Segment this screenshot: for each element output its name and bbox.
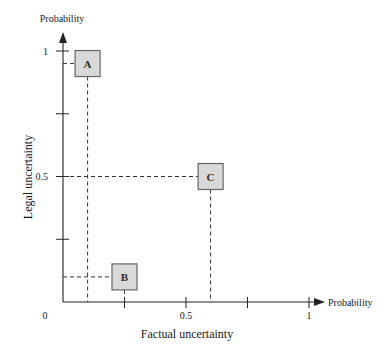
point-a: A xyxy=(75,51,100,77)
axis-ticks xyxy=(56,51,309,308)
y-axis-end-label: Probability xyxy=(40,13,84,24)
x-axis-arrow-icon xyxy=(314,298,325,306)
point-c: C xyxy=(198,164,223,190)
point-label: C xyxy=(207,171,215,183)
uncertainty-chart: 00.510.51 ABC Probability Probability Le… xyxy=(0,0,390,355)
point-b: B xyxy=(112,264,137,290)
y-tick-label: 1 xyxy=(43,46,48,57)
tick-labels: 00.510.51 xyxy=(36,46,312,322)
x-tick-label: 0.5 xyxy=(180,310,193,321)
point-label: B xyxy=(121,271,129,283)
point-label: A xyxy=(84,58,92,70)
data-points: ABC xyxy=(75,51,223,290)
y-axis-arrow-icon xyxy=(59,32,67,43)
x-tick-label: 1 xyxy=(307,310,312,321)
x-axis-title: Factual uncertainty xyxy=(141,327,233,341)
y-axis-title: Legal uncertainty xyxy=(21,135,35,219)
y-tick-label: 0.5 xyxy=(36,171,49,182)
x-axis-end-label: Probability xyxy=(328,297,372,308)
x-tick-label: 0 xyxy=(43,310,48,321)
